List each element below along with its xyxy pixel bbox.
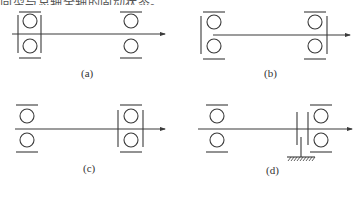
panel-d	[198, 105, 352, 161]
bearing-arrangement-diagram	[0, 0, 364, 197]
ground-hatching	[288, 157, 315, 161]
panel-b-label: (b)	[264, 67, 277, 79]
panel-c-label: (c)	[83, 162, 95, 174]
panel-a	[12, 12, 165, 58]
panel-a-label: (a)	[81, 67, 93, 79]
panel-b	[201, 12, 350, 59]
panel-c	[15, 105, 165, 152]
panel-d-label: (d)	[266, 164, 279, 176]
